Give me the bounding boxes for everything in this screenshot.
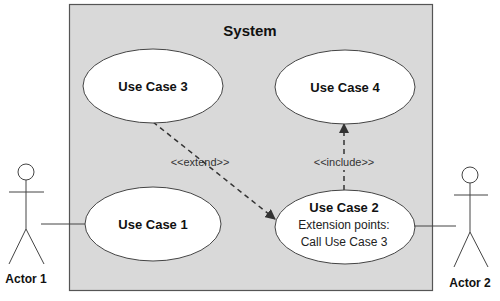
- use-case-2[interactable]: Use Case 2 Extension points: Call Use Ca…: [275, 190, 415, 264]
- actor-2[interactable]: [454, 167, 488, 267]
- use-case-1-title: Use Case 1: [118, 217, 187, 232]
- actor-2-head-icon: [462, 167, 478, 183]
- use-case-3[interactable]: Use Case 3: [83, 49, 223, 123]
- use-case-1[interactable]: Use Case 1: [85, 187, 221, 261]
- use-case-4-title: Use Case 4: [310, 80, 380, 95]
- actor-1[interactable]: [9, 164, 44, 264]
- actor-2-label: Actor 2: [449, 276, 491, 290]
- use-case-2-title: Use Case 2: [309, 200, 378, 215]
- actor-1-label: Actor 1: [5, 272, 47, 286]
- use-case-diagram: System <<extend>> <<include>> Use Case 3…: [0, 0, 500, 301]
- use-case-2-extension-label: Extension points:: [298, 218, 389, 232]
- use-case-2-extension-point: Call Use Case 3: [301, 235, 388, 249]
- use-case-3-title: Use Case 3: [118, 79, 187, 94]
- include-label: <<include>>: [314, 156, 375, 168]
- system-title: System: [223, 22, 276, 39]
- extend-label: <<extend>>: [171, 156, 230, 168]
- use-case-4[interactable]: Use Case 4: [275, 50, 415, 124]
- actor-1-head-icon: [18, 164, 34, 180]
